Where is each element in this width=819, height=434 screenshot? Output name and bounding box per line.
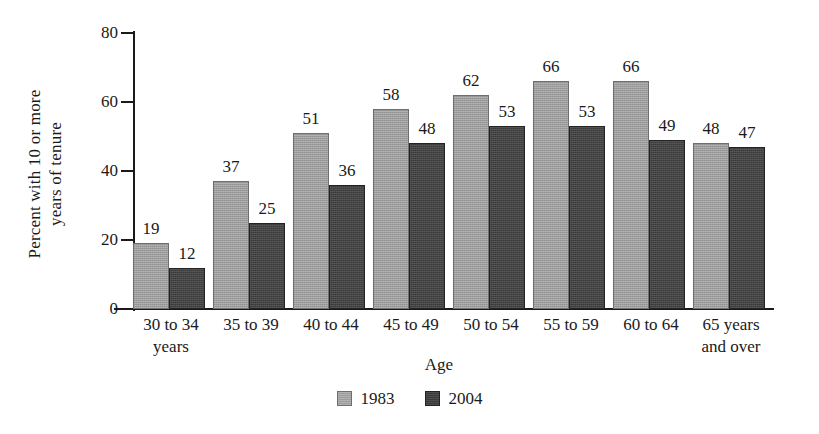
x-axis-category-line-1: 60 to 64 xyxy=(623,315,679,334)
bar-2004-55-to-59 xyxy=(569,126,605,309)
bar-value-label: 36 xyxy=(327,162,367,179)
legend-swatch-1983 xyxy=(337,391,352,406)
plot-area: 19123725513658486253665366494847 xyxy=(133,33,773,309)
x-axis-category-line-1: 45 to 49 xyxy=(383,315,439,334)
y-axis-tick-label-wrap: 0 xyxy=(74,300,118,317)
x-axis-category-label: 50 to 54 xyxy=(446,314,536,336)
x-axis-category-line-1: 50 to 54 xyxy=(463,315,519,334)
x-axis-category-line-1: 40 to 44 xyxy=(303,315,359,334)
bar-value-label: 25 xyxy=(247,200,287,217)
x-axis-category-line-1: 55 to 59 xyxy=(543,315,599,334)
bar-1983-45-to-49 xyxy=(373,109,409,309)
x-axis-category-line-1: 35 to 39 xyxy=(223,315,279,334)
x-axis-category-line-2: years xyxy=(126,336,216,358)
bar-value-label: 19 xyxy=(131,220,171,237)
bar-2004-60-to-64 xyxy=(649,140,685,309)
bar-1983-35-to-39 xyxy=(213,181,249,309)
legend: 1983 2004 xyxy=(0,390,819,407)
x-axis-category-label: 45 to 49 xyxy=(366,314,456,336)
bar-2004-35-to-39 xyxy=(249,223,285,309)
legend-label-1983: 1983 xyxy=(361,390,395,407)
y-axis-title-line-2: years of tenure xyxy=(45,44,66,304)
x-axis-category-label: 55 to 59 xyxy=(526,314,616,336)
bar-2004-50-to-54 xyxy=(489,126,525,309)
bar-1983-60-to-64 xyxy=(613,81,649,309)
bar-value-label: 66 xyxy=(531,58,571,75)
x-axis-category-label: 30 to 34years xyxy=(126,314,216,358)
bar-value-label: 48 xyxy=(691,120,731,137)
bar-value-label: 47 xyxy=(727,124,767,141)
legend-item-2004: 2004 xyxy=(425,390,483,407)
bar-1983-55-to-59 xyxy=(533,81,569,309)
y-axis-tick-label-wrap: 80 xyxy=(74,24,118,41)
bar-1983-50-to-54 xyxy=(453,95,489,309)
bar-value-label: 51 xyxy=(291,110,331,127)
y-axis-tick-label-wrap: 40 xyxy=(74,162,118,179)
legend-label-2004: 2004 xyxy=(449,390,483,407)
bar-value-label: 53 xyxy=(567,103,607,120)
bar-value-label: 66 xyxy=(611,58,651,75)
bar-value-label: 37 xyxy=(211,158,251,175)
y-axis-tick-label: 80 xyxy=(82,24,118,41)
bar-2004-45-to-49 xyxy=(409,143,445,309)
x-axis-category-line-1: 30 to 34 xyxy=(143,315,199,334)
x-axis-category-label: 40 to 44 xyxy=(286,314,376,336)
bar-value-label: 49 xyxy=(647,117,687,134)
y-axis-tick-label: 20 xyxy=(82,231,118,248)
legend-swatch-2004 xyxy=(425,391,440,406)
y-axis-tick-label: 40 xyxy=(82,162,118,179)
legend-item-1983: 1983 xyxy=(337,390,395,407)
bar-1983-30-to-34-years xyxy=(133,243,169,309)
y-axis-title: Percent with 10 or more years of tenure xyxy=(24,44,68,304)
y-axis-title-line-1: Percent with 10 or more xyxy=(24,44,45,304)
bar-chart: Percent with 10 or more years of tenure … xyxy=(0,0,819,434)
y-axis-tick-label-wrap: 60 xyxy=(74,93,118,110)
bar-value-label: 12 xyxy=(167,245,207,262)
y-axis-tick-label: 0 xyxy=(82,300,118,317)
x-axis-title: Age xyxy=(389,355,489,375)
x-axis-category-label: 60 to 64 xyxy=(606,314,696,336)
bar-value-label: 62 xyxy=(451,72,491,89)
bar-value-label: 58 xyxy=(371,86,411,103)
bar-1983-65-years-and-over xyxy=(693,143,729,309)
x-axis-category-label: 35 to 39 xyxy=(206,314,296,336)
bar-2004-30-to-34-years xyxy=(169,268,205,309)
bar-1983-40-to-44 xyxy=(293,133,329,309)
bar-2004-65-years-and-over xyxy=(729,147,765,309)
bar-value-label: 53 xyxy=(487,103,527,120)
y-axis-tick-label: 60 xyxy=(82,93,118,110)
y-axis-tick-label-wrap: 20 xyxy=(74,231,118,248)
bar-2004-40-to-44 xyxy=(329,185,365,309)
bar-value-label: 48 xyxy=(407,120,447,137)
x-axis-category-label: 65 yearsand over xyxy=(686,314,776,358)
x-axis-category-line-2: and over xyxy=(686,336,776,358)
x-axis-category-line-1: 65 years xyxy=(702,315,759,334)
